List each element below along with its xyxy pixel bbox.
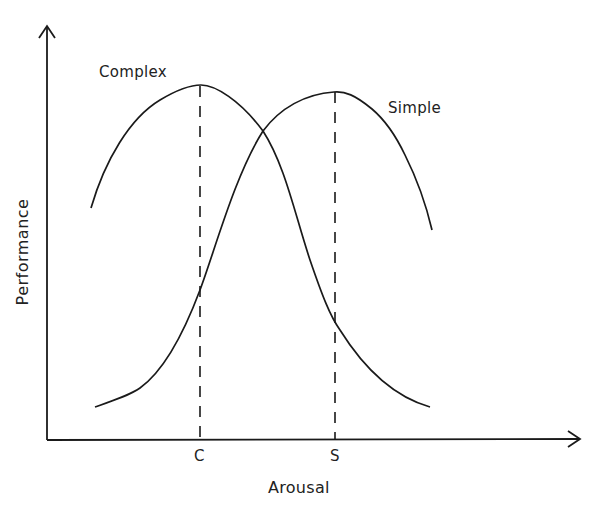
chart-canvas (0, 0, 601, 508)
simple-curve (95, 92, 432, 407)
complex-curve-label: Complex (99, 63, 167, 81)
x-axis-label: Arousal (268, 478, 330, 497)
simple-curve-label: Simple (388, 99, 441, 117)
x-tick-s: S (330, 447, 340, 465)
complex-curve (91, 85, 430, 407)
y-axis-label: Performance (13, 199, 32, 306)
x-axis (47, 439, 579, 440)
x-tick-c: C (194, 447, 205, 465)
